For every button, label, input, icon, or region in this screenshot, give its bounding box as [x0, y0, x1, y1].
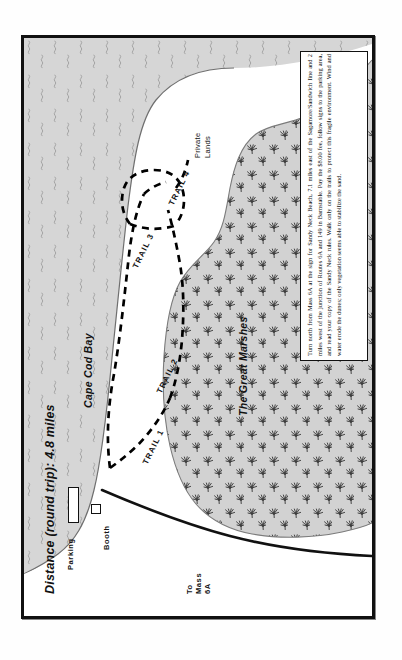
label-road-line-2: Mass [195, 573, 203, 594]
label-road-line-1: To [186, 584, 194, 594]
label-cape-cod-bay: Cape Cod Bay [82, 333, 94, 408]
map-page: Turn north from Mass 6A at the sign for … [0, 0, 402, 660]
parking-lot-shape [68, 487, 79, 523]
map-frame: Turn north from Mass 6A at the sign for … [21, 35, 375, 619]
map-title: Distance (round trip): 4.8 miles [43, 404, 57, 594]
label-private-lands-line-1: Private [194, 133, 203, 158]
label-road-line-3: 6A [204, 583, 212, 594]
label-private-lands-line-2: Lands [204, 136, 213, 158]
label-parking: Parking [67, 538, 75, 570]
info-text-box: Turn north from Mass 6A at the sign for … [300, 51, 368, 361]
info-paragraph: Turn north from Mass 6A at the sign for … [305, 54, 343, 356]
map-canvas: Turn north from Mass 6A at the sign for … [24, 38, 372, 616]
trail-segment-link [144, 182, 166, 194]
trail-segment-trail-3-base [130, 224, 176, 229]
label-booth: Booth [103, 525, 111, 550]
label-great-marshes: The Great Marshes [237, 316, 249, 416]
booth-shape [91, 504, 101, 514]
